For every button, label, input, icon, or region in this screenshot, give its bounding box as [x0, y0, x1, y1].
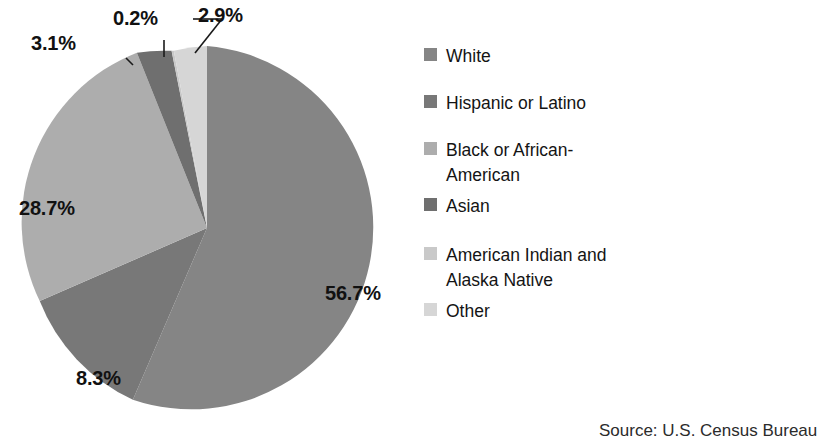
- legend-swatch-icon: [424, 95, 437, 108]
- legend-item-other[interactable]: Other: [424, 299, 754, 324]
- legend-item-asian[interactable]: Asian: [424, 194, 754, 219]
- legend-swatch-icon: [424, 198, 437, 211]
- chart-legend: White Hispanic or Latino Black or Africa…: [424, 44, 754, 346]
- pie-label-hispanic-or-latino: 8.3%: [76, 368, 121, 388]
- legend-label: Hispanic or Latino: [446, 91, 586, 116]
- legend-item-white[interactable]: White: [424, 44, 754, 69]
- legend-label: White: [446, 44, 491, 69]
- legend-item-black-or-african-american[interactable]: Black or African- American: [424, 138, 754, 188]
- legend-item-hispanic-or-latino[interactable]: Hispanic or Latino: [424, 91, 754, 116]
- legend-item-american-indian-and-alaska-native[interactable]: American Indian and Alaska Native: [424, 243, 754, 293]
- pie-chart: 56.7% 8.3% 28.7% 3.1% 0.2% 2.9% White Hi…: [0, 0, 819, 448]
- pie-label-black-or-african-american: 28.7%: [19, 198, 75, 218]
- pie-label-white: 56.7%: [325, 283, 381, 303]
- legend-label: Asian: [446, 194, 490, 219]
- source-note: Source: U.S. Census Bureau: [599, 421, 817, 441]
- pie-label-other: 2.9%: [198, 5, 243, 25]
- legend-label: Black or African- American: [446, 138, 573, 188]
- pie-label-asian: 3.1%: [31, 33, 76, 53]
- legend-swatch-icon: [424, 142, 437, 155]
- pie-svg: [0, 0, 420, 448]
- legend-swatch-icon: [424, 247, 437, 260]
- legend-swatch-icon: [424, 48, 437, 61]
- legend-label: Other: [446, 299, 490, 324]
- legend-swatch-icon: [424, 303, 437, 316]
- pie-plot-area: 56.7% 8.3% 28.7% 3.1% 0.2% 2.9%: [0, 0, 420, 448]
- legend-label: American Indian and Alaska Native: [446, 243, 607, 293]
- pie-label-american-indian-and-alaska-native: 0.2%: [113, 8, 158, 28]
